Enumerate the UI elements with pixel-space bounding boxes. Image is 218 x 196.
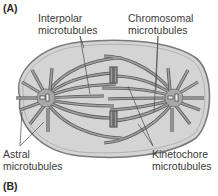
label-kinetochore-microtubules: Kinetochore microtubules xyxy=(152,148,212,172)
centrosome-right xyxy=(165,89,183,107)
label-astral-microtubules: Astral microtubules xyxy=(3,148,63,172)
centrosome-left xyxy=(37,89,55,107)
panel-b-label: (B) xyxy=(3,180,18,192)
